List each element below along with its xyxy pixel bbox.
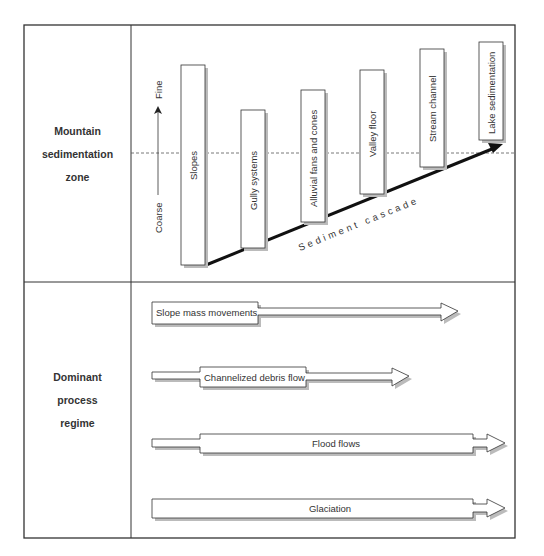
sediment-cascade-diagram: Coarse Fine Sediment cascade Slopes Gull… (0, 0, 544, 556)
process-flood-flows: Flood flows (152, 434, 508, 456)
stage-label: Alluvial fans and cones (308, 110, 319, 207)
stage-slopes: Slopes (181, 65, 208, 268)
grain-size-axis: Coarse Fine (153, 81, 164, 233)
process-glaciation: Glaciation (152, 499, 508, 521)
process-label: Channelized debris flow (204, 372, 305, 383)
stage-stream-channel: Stream channel (420, 49, 447, 170)
sediment-cascade-arrowhead (488, 143, 503, 153)
stage-label: Valley floor (367, 111, 378, 157)
axis-label-fine: Fine (153, 81, 164, 99)
axis-label-coarse: Coarse (153, 202, 164, 233)
stage-label: Stream channel (427, 75, 438, 142)
stage-gully-systems: Gully systems (241, 110, 268, 251)
process-channelized-debris-flow: Channelized debris flow (152, 367, 412, 390)
stage-label: Lake sedimentation (486, 52, 497, 134)
stage-label: Gully systems (248, 151, 259, 210)
process-label: Flood flows (312, 438, 360, 449)
process-slope-mass-movements: Slope mass movements (152, 302, 461, 327)
stage-alluvial-fans-and-cones: Alluvial fans and cones (301, 90, 328, 225)
process-label: Slope mass movements (156, 307, 258, 318)
stage-valley-floor: Valley floor (360, 70, 387, 197)
process-label: Glaciation (309, 503, 351, 514)
stage-lake-sedimentation: Lake sedimentation (479, 42, 506, 143)
stage-label: Slopes (188, 151, 199, 180)
